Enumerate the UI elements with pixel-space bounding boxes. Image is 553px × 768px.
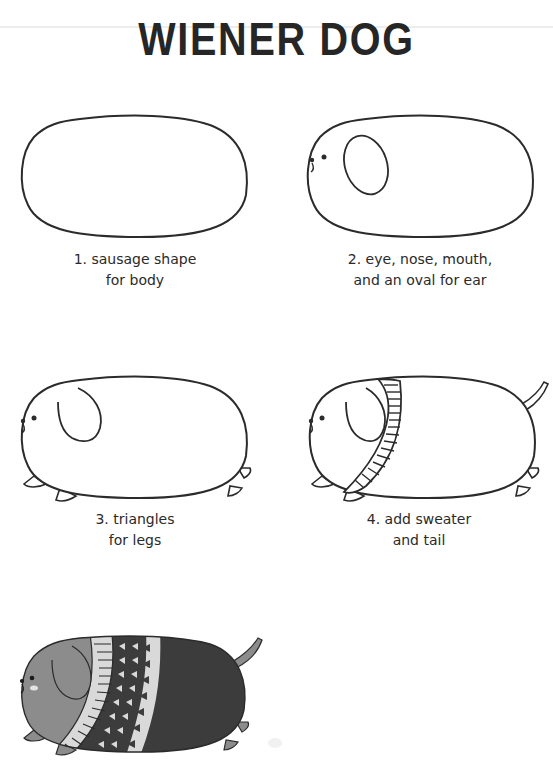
caption-line: for legs (40, 530, 230, 551)
caption-line: for body (40, 270, 230, 291)
eye-icon (322, 155, 327, 160)
step-4-caption: 4. add sweater and tail (324, 509, 514, 551)
cheek-blush (30, 686, 38, 691)
eye-icon (320, 416, 325, 421)
nose-icon (309, 419, 313, 423)
caption-line: 2. eye, nose, mouth, (325, 249, 515, 270)
eye-icon (32, 416, 37, 421)
mouth-icon (311, 163, 313, 172)
ear-oval (337, 130, 395, 200)
caption-line: and tail (324, 530, 514, 551)
step-1-caption: 1. sausage shape for body (40, 249, 230, 291)
sausage-body-outline (308, 116, 533, 237)
leg-triangle (516, 486, 530, 496)
nose-icon (20, 679, 24, 683)
nose-icon (21, 419, 25, 423)
sausage-body-outline (310, 377, 535, 498)
paper-smudge (268, 738, 282, 748)
eye-icon (30, 676, 35, 681)
page-title: WIENER DOG (39, 12, 515, 66)
step-4 (308, 376, 548, 501)
caption-line: and an oval for ear (325, 270, 515, 291)
step-2-caption: 2. eye, nose, mouth, and an oval for ear (325, 249, 515, 291)
step-5-finished-dog (20, 636, 265, 756)
step-1 (20, 115, 250, 240)
caption-line: 3. triangles (40, 509, 230, 530)
caption-line: 1. sausage shape (40, 249, 230, 270)
caption-line: 4. add sweater (324, 509, 514, 530)
sausage-body-outline (22, 377, 247, 498)
leg-triangle (224, 740, 238, 750)
step-2 (306, 115, 536, 240)
step-3-caption: 3. triangles for legs (40, 509, 230, 551)
step-3 (20, 376, 250, 501)
leg-triangle (228, 486, 242, 496)
sausage-body-outline (20, 115, 250, 240)
nose-icon (310, 158, 314, 162)
